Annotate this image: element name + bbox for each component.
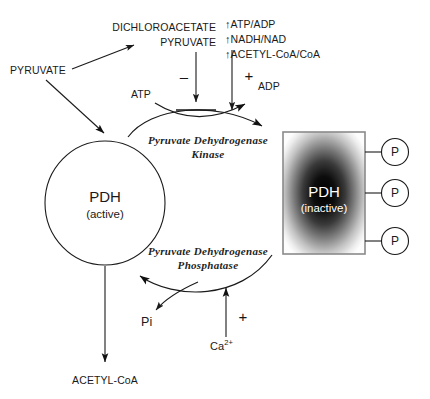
phosphate-label-3: P [391, 234, 399, 248]
phosphate-label-1: P [391, 145, 399, 159]
label-pyruvate-left: PYRUVATE [10, 64, 66, 76]
sign-inhibition: – [180, 68, 188, 85]
label-atp: ATP [131, 88, 151, 100]
calcium-charge: 2+ [224, 338, 233, 347]
enzyme-kinase-line1: Pyruvate Dehydrogenase [148, 134, 268, 146]
sign-activation-kinase: + [245, 67, 254, 84]
label-dichloroacetate: DICHLOROACETATE [112, 21, 216, 33]
pdh-regulation-diagram: PYRUVATE DICHLOROACETATE PYRUVATE ↑ATP/A… [0, 0, 430, 399]
arrow-kinase-reaction [128, 110, 262, 137]
activator-item-2: ↑NADH/NAD [225, 33, 286, 46]
label-pi: Pi [141, 315, 152, 330]
pdh-inactive-state: (inactive) [301, 202, 348, 214]
label-pyruvate-top: PYRUVATE [160, 36, 216, 48]
sign-activation-phosphatase: + [239, 308, 248, 325]
pdh-active-name: PDH [89, 188, 121, 205]
pdh-inactive-name: PDH [308, 183, 340, 200]
activator-label-2: NADH/NAD [231, 33, 287, 45]
activator-item-1: ↑ATP/ADP [225, 18, 275, 31]
activator-item-3: ↑ACETYL-CoA/CoA [225, 48, 320, 61]
phosphate-label-2: P [391, 186, 399, 200]
enzyme-phosphatase-line2: Phosphatase [178, 259, 239, 271]
arrow-pyruvate-to-pdh [46, 80, 104, 133]
label-acetyl-coa: ACETYL-CoA [72, 374, 138, 386]
calcium-symbol: Ca [210, 340, 224, 352]
enzyme-kinase: Pyruvate Dehydrogenase Kinase [148, 134, 268, 162]
enzyme-phosphatase: Pyruvate Dehydrogenase Phosphatase [148, 245, 268, 273]
label-adp: ADP [258, 80, 280, 92]
enzyme-kinase-line2: Kinase [192, 148, 225, 160]
enzyme-phosphatase-line1: Pyruvate Dehydrogenase [148, 245, 268, 257]
pdh-active-state: (active) [86, 208, 124, 220]
label-calcium: Ca2+ [210, 339, 233, 353]
activator-label-1: ATP/ADP [231, 18, 276, 30]
arrow-pyruvate-to-top [72, 45, 134, 69]
activator-label-3: ACETYL-CoA/CoA [231, 48, 321, 60]
